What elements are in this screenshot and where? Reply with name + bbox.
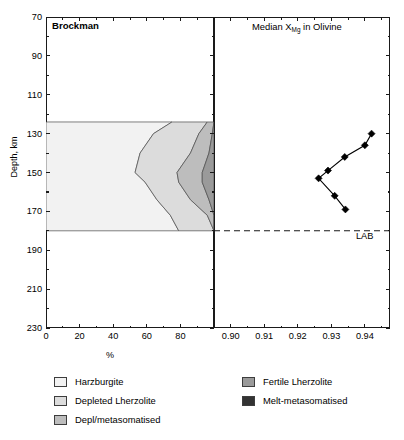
y-tick-label: 170 — [2, 206, 42, 216]
y-tick-minor-right-panel — [212, 114, 215, 115]
x-tick-major-right-top — [230, 17, 231, 21]
x-tick-minor-left — [197, 326, 198, 329]
y-tick-major-right-edge — [386, 94, 390, 95]
y-tick-major-right-panel — [210, 17, 214, 18]
x-tick-major-left — [180, 324, 181, 328]
x-tick-major-right — [230, 324, 231, 328]
legend-column-2: Fertile LherzoliteMelt-metasomatised — [242, 372, 347, 410]
left-panel-title: Brockman — [52, 20, 99, 31]
y-tick-major — [46, 17, 50, 18]
x-axis-label-left: % — [106, 350, 114, 360]
legend-label: Harzburgite — [75, 376, 123, 387]
y-tick-label: 230 — [2, 323, 42, 333]
y-tick-minor-right-edge — [388, 308, 391, 309]
y-tick-major-right-edge — [386, 250, 390, 251]
y-tick-minor-right-edge — [388, 269, 391, 270]
x-tick-major-left-top — [146, 17, 147, 21]
legend-item: Harzburgite — [54, 372, 160, 391]
y-tick-major-right-edge — [386, 133, 390, 134]
legend-swatch-icon — [54, 396, 67, 406]
y-tick-major-right-edge — [386, 55, 390, 56]
x-tick-label-left: 60 — [142, 331, 152, 341]
x-tick-label-right: 0.93 — [322, 331, 340, 341]
x-tick-minor-right-top — [381, 17, 382, 20]
y-tick-label: 150 — [2, 168, 42, 178]
xmg-line-series — [214, 17, 390, 328]
y-tick-major — [46, 328, 50, 329]
y-tick-major-right-edge — [386, 328, 390, 329]
y-tick-minor-right-panel — [212, 308, 215, 309]
y-tick-minor-right-edge — [388, 191, 391, 192]
x-tick-label-left: 20 — [74, 331, 84, 341]
legend-label: Depl/metasomatised — [75, 414, 160, 425]
y-tick-label: 90 — [2, 51, 42, 61]
xmg-data-point — [361, 142, 368, 149]
x-tick-major-left-top — [79, 17, 80, 21]
x-tick-minor-right-top — [348, 17, 349, 20]
y-tick-minor-right-panel — [212, 269, 215, 270]
y-tick-label: 210 — [2, 284, 42, 294]
x-tick-minor-left — [62, 326, 63, 329]
right-title-prefix: Median X — [252, 21, 292, 32]
y-tick-minor — [46, 269, 49, 270]
x-tick-minor-left-top — [163, 17, 164, 20]
x-tick-major-left — [113, 324, 114, 328]
y-tick-minor-right-panel — [212, 75, 215, 76]
x-tick-minor-right-top — [314, 17, 315, 20]
legend-swatch-icon — [242, 377, 255, 387]
y-tick-minor — [46, 153, 49, 154]
y-tick-major — [46, 133, 50, 134]
x-tick-major-left-top — [113, 17, 114, 21]
legend-item: Fertile Lherzolite — [242, 372, 347, 391]
x-tick-major-right — [331, 324, 332, 328]
legend-item: Depl/metasomatised — [54, 410, 160, 429]
right-title-suffix: in Olivine — [301, 21, 342, 32]
y-tick-label: 70 — [2, 12, 42, 22]
y-tick-major — [46, 289, 50, 290]
y-tick-minor-right-panel — [212, 153, 215, 154]
y-tick-major-right-panel — [210, 133, 214, 134]
legend-item: Melt-metasomatised — [242, 391, 347, 410]
x-tick-minor-left-top — [130, 17, 131, 20]
y-tick-major — [46, 94, 50, 95]
y-tick-minor — [46, 114, 49, 115]
y-tick-major-right-edge — [386, 289, 390, 290]
y-tick-major — [46, 250, 50, 251]
y-tick-label: 130 — [2, 129, 42, 139]
y-tick-major-right-panel — [210, 328, 214, 329]
x-tick-minor-left-top — [197, 17, 198, 20]
y-tick-minor — [46, 75, 49, 76]
y-tick-minor-right-panel — [212, 230, 215, 231]
x-tick-minor-left-top — [62, 17, 63, 20]
x-tick-major-left-top — [180, 17, 181, 21]
x-tick-minor-left-top — [96, 17, 97, 20]
y-tick-minor — [46, 230, 49, 231]
legend-label: Melt-metasomatised — [263, 395, 347, 406]
x-tick-minor-right — [348, 326, 349, 329]
x-tick-minor-right-top — [247, 17, 248, 20]
lab-annotation-label: LAB — [356, 231, 373, 241]
y-tick-major-right-panel — [210, 211, 214, 212]
x-tick-major-right-top — [297, 17, 298, 21]
y-tick-major-right-panel — [210, 94, 214, 95]
x-tick-minor-right — [381, 326, 382, 329]
legend-item: Depleted Lherzolite — [54, 391, 160, 410]
x-tick-major-left — [46, 324, 47, 328]
x-tick-label-left: 40 — [108, 331, 118, 341]
y-tick-major-right-edge — [386, 172, 390, 173]
y-tick-major-right-panel — [210, 250, 214, 251]
y-tick-minor-right-panel — [212, 191, 215, 192]
x-tick-major-right-top — [264, 17, 265, 21]
x-tick-major-left — [79, 324, 80, 328]
y-tick-major-right-panel — [210, 172, 214, 173]
x-tick-minor-right — [281, 326, 282, 329]
y-axis-label: Depth, km — [9, 127, 19, 187]
y-tick-major-right-edge — [386, 211, 390, 212]
y-tick-minor-right-panel — [212, 36, 215, 37]
x-tick-label-right: 0.92 — [289, 331, 307, 341]
x-tick-label-right: 0.91 — [255, 331, 273, 341]
y-tick-major — [46, 172, 50, 173]
x-tick-minor-left — [130, 326, 131, 329]
legend-swatch-icon — [54, 377, 67, 387]
y-tick-minor — [46, 308, 49, 309]
